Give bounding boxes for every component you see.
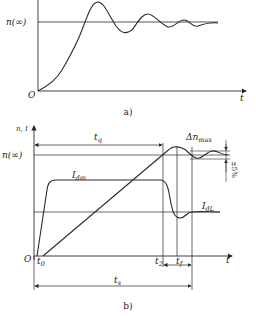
steady-state-label-b: n(∞): [2, 150, 23, 160]
tq-label: tq: [94, 132, 102, 144]
y-axis-label-b: n, I: [16, 125, 28, 133]
figure-a: n(∞) O t a): [6, 0, 246, 117]
diagram-canvas: n(∞) O t a) n,: [0, 0, 256, 316]
x-axis-label-b: t: [226, 255, 230, 265]
t0-label: t0: [37, 256, 45, 268]
speed-response-curve-a: [38, 2, 218, 91]
origin-label-a: O: [28, 90, 36, 100]
tf-label: tf: [176, 256, 184, 268]
steady-state-label-a: n(∞): [6, 17, 27, 27]
origin-label-b: O: [24, 254, 32, 264]
ts-label: ts: [114, 275, 122, 287]
caption-b: b): [123, 301, 132, 311]
speed-curve-b: [43, 147, 228, 256]
x-axis-label-a: t: [240, 93, 244, 103]
figure-b: n, I n(∞) O t Idm IdL t0 t2 tf tq ts Δnm…: [2, 125, 238, 311]
current-curve-b: [37, 180, 220, 256]
caption-a: a): [124, 107, 133, 117]
tolerance-label: ±5%: [230, 161, 238, 178]
overshoot-label: Δnmax: [185, 132, 212, 144]
t2-label: t2: [155, 256, 163, 268]
